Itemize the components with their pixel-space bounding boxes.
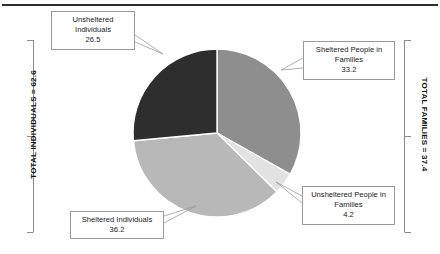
callout-unsheltered-people-in-families: Unsheltered People in Families 4.2	[302, 186, 395, 225]
callout-sheltered-people-in-families: Sheltered People in Families 33.2	[303, 41, 395, 80]
total-individuals-label: TOTAL INDIVIDUALS = 62.6	[29, 30, 38, 220]
callout-unsheltered-individuals: Unsheltered Individuals 26.5	[51, 11, 135, 50]
callout-sheltered-individuals: Sheltered Individuals 36.2	[70, 211, 164, 239]
callout-value: 36.2	[75, 225, 159, 235]
callout-line1: Sheltered People in	[316, 45, 382, 54]
callout-value: 4.2	[307, 210, 390, 220]
pie-chart-figure: Unsheltered Individuals 26.5 Sheltered P…	[0, 0, 440, 254]
callout-line1: Unsheltered	[73, 15, 114, 24]
callout-line2: Families	[335, 55, 363, 64]
total-families-bracket	[405, 40, 412, 233]
callout-line1: Unsheltered People	[311, 190, 378, 199]
pie-slice	[133, 49, 217, 141]
pie-slice-group	[133, 49, 301, 217]
callout-line2: Individuals	[75, 25, 111, 34]
callout-value: 26.5	[56, 35, 130, 45]
callout-line1: Sheltered Individuals	[82, 215, 153, 224]
callout-value: 33.2	[308, 65, 390, 75]
total-families-label: TOTAL FAMILIES = 37.4	[420, 30, 429, 220]
